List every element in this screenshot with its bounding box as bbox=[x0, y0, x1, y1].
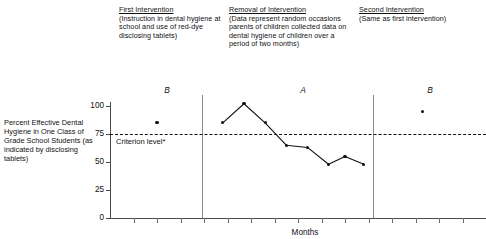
data-point bbox=[306, 146, 309, 149]
phase-note-body: (Same as first intervention) bbox=[359, 15, 483, 24]
y-tick-label: 100 bbox=[80, 101, 104, 110]
x-axis-title: Months bbox=[260, 228, 350, 237]
series-line-layer bbox=[110, 92, 486, 219]
y-tick-label: 75 bbox=[80, 129, 104, 138]
phase-note-removal-of-intervention: Removal of Intervention (Data represent … bbox=[229, 6, 349, 49]
phase-note-body: (Instruction in dental hygiene at school… bbox=[119, 15, 223, 41]
y-tick-label: 50 bbox=[80, 157, 104, 166]
phase-note-first-intervention: First Intervention (Instruction in denta… bbox=[119, 6, 223, 40]
plot-area: 0255075100 Criterion level* BAB Months bbox=[110, 92, 486, 219]
figure-root: First Intervention (Instruction in denta… bbox=[0, 0, 486, 239]
y-tick-label: 0 bbox=[80, 213, 104, 222]
phase-note-second-intervention: Second Intervention (Same as first inter… bbox=[359, 6, 483, 23]
data-point bbox=[242, 102, 245, 105]
phase-note-body: (Data represent random occasions parents… bbox=[229, 15, 349, 49]
data-point bbox=[327, 163, 330, 166]
data-point bbox=[285, 144, 288, 147]
data-point bbox=[343, 155, 346, 158]
y-tick-label: 25 bbox=[80, 185, 104, 194]
